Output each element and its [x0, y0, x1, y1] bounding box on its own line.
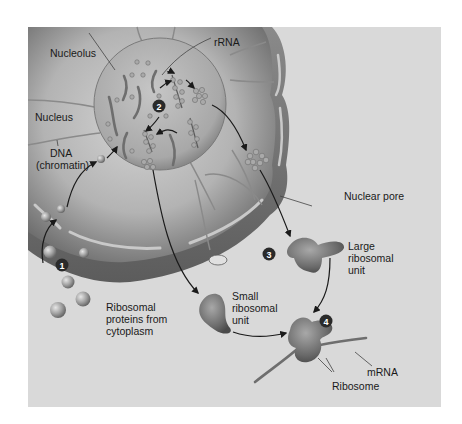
svg-text:4: 4: [323, 317, 328, 327]
ribosome-assembly-diagram: 1 2 3 4 Nucleolus rRNA Nucleus DNA (chro…: [0, 0, 462, 424]
label-small-unit-1: Small: [232, 290, 258, 302]
step-marker-1: 1: [56, 259, 69, 272]
label-dna: DNA: [50, 147, 72, 159]
label-mrna: mRNA: [367, 366, 398, 378]
step-marker-2: 2: [153, 100, 166, 113]
svg-text:3: 3: [266, 250, 271, 260]
label-proteins-3: cytoplasm: [106, 325, 154, 337]
label-proteins-2: proteins from: [106, 313, 168, 325]
svg-text:2: 2: [156, 102, 161, 112]
step-marker-3: 3: [263, 248, 276, 261]
label-small-unit-3: unit: [232, 314, 249, 326]
label-small-unit-2: ribosomal: [232, 302, 278, 314]
label-nuclear-pore: Nuclear pore: [344, 190, 404, 202]
step-marker-4: 4: [320, 315, 333, 328]
svg-text:1: 1: [59, 261, 64, 271]
label-ribosome: Ribosome: [332, 380, 379, 392]
label-large-unit-2: ribosomal: [348, 252, 394, 264]
protein-at-pore: [57, 205, 65, 213]
label-rrna: rRNA: [214, 36, 240, 48]
label-large-unit-1: Large: [348, 240, 375, 252]
label-nucleus: Nucleus: [35, 111, 73, 123]
ribosomal-protein: [41, 212, 51, 222]
label-nucleolus: Nucleolus: [50, 47, 96, 59]
chromatin-granule: [97, 155, 105, 163]
label-large-unit-3: unit: [348, 264, 365, 276]
diagram-canvas: 1 2 3 4 Nucleolus rRNA Nucleus DNA (chro…: [0, 0, 462, 424]
label-chromatin: (chromatin): [36, 159, 89, 171]
ribosomal-protein: [79, 248, 89, 258]
label-proteins-1: Ribosomal: [106, 301, 156, 313]
